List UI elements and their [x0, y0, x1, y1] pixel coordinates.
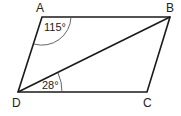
vertex-label-d: D: [12, 97, 21, 109]
diagonal-bd: [18, 17, 170, 92]
parallelogram-diagram: [0, 0, 181, 116]
vertex-label-c: C: [143, 97, 152, 109]
angle-label-a: 115°: [44, 22, 66, 33]
vertex-label-b: B: [166, 2, 174, 14]
angle-label-d: 28°: [42, 80, 59, 91]
vertex-label-a: A: [36, 2, 44, 14]
